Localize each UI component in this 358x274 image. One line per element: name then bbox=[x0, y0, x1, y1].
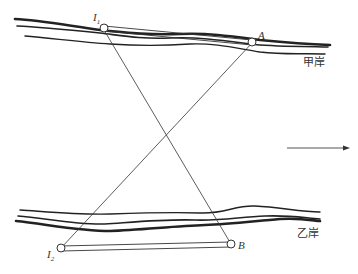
flow-arrow-icon bbox=[287, 146, 350, 151]
label-i2: I2 bbox=[47, 249, 54, 263]
label-i1: I1 bbox=[93, 12, 100, 26]
diagram-canvas: I1 A I2 B 甲岸 乙岸 bbox=[0, 0, 358, 274]
station-a-marker bbox=[248, 38, 256, 46]
baseline-bottom bbox=[61, 242, 231, 251]
station-i1-marker bbox=[100, 24, 108, 32]
station-b-marker bbox=[227, 240, 235, 248]
station-i2-marker bbox=[57, 244, 65, 252]
label-a: A bbox=[258, 30, 265, 41]
upper-bank-label: 甲岸 bbox=[303, 57, 325, 68]
lower-bank-label: 乙岸 bbox=[297, 228, 319, 239]
upper-bank-lines bbox=[15, 19, 330, 54]
lower-bank-lines bbox=[16, 206, 320, 231]
sight-lines bbox=[61, 30, 252, 248]
label-b: B bbox=[238, 240, 245, 251]
